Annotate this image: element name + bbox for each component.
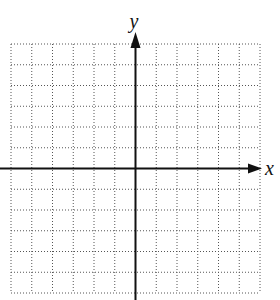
x-axis-label: x (264, 157, 274, 179)
y-axis-label: y (128, 10, 139, 33)
y-axis-arrow-icon (131, 32, 141, 48)
coordinate-plane: x y (0, 0, 280, 300)
